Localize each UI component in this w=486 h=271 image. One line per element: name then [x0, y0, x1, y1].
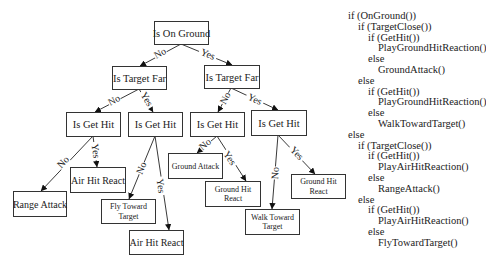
edge-label: No [134, 160, 149, 176]
edge-yes: Yes [278, 135, 315, 174]
code-line: if (GetHit()) [368, 86, 420, 97]
edge-no: No [129, 136, 155, 199]
code-line: else [358, 194, 374, 205]
node-label: React [224, 194, 243, 203]
code-line: WalkTowardTarget() [378, 118, 465, 129]
edge-no: No [217, 88, 232, 112]
node-ground-hit-1: Ground HitReact [206, 182, 261, 207]
node-label: React [309, 187, 328, 196]
node-label: Is Target Far [113, 73, 167, 84]
node-label: Is Get Hit [135, 119, 176, 130]
node-label: Target [118, 212, 139, 221]
code-line: PlayAirHitReaction() [378, 215, 468, 226]
code-line: else [358, 75, 374, 86]
code-line: else [368, 53, 384, 64]
node-hit-2: Is Get Hit [129, 113, 183, 137]
node-hit-4: Is Get Hit [252, 111, 307, 136]
node-root: Is On Ground [153, 22, 211, 45]
node-fly-toward: Fly TowardTarget [102, 200, 156, 224]
node-label: Is Target Far [205, 72, 259, 83]
edge-label: No [197, 136, 213, 152]
node-label: Ground Attack [172, 162, 219, 171]
code-line: else [368, 107, 384, 118]
node-label: Walk Toward [251, 213, 294, 222]
edge-label: No [217, 90, 232, 106]
node-walk-toward: Walk TowardTarget [246, 210, 300, 235]
code-line: if (TargetClose()) [358, 140, 431, 151]
node-far-l: Is Target Far [113, 67, 167, 90]
edge-yes: Yes [90, 136, 103, 167]
node-air-hit-2: Air Hit React [130, 231, 184, 255]
node-label: Is Get Hit [258, 118, 299, 129]
node-hit-3: Is Get Hit [191, 113, 245, 137]
code-line: if (OnGround()) [348, 10, 416, 21]
code-line: if (GetHit()) [368, 32, 420, 43]
node-label: Ground Hit [300, 177, 337, 186]
node-hit-1: Is Get Hit [67, 113, 121, 137]
node-label: Fly Toward [110, 202, 147, 211]
edge-yes: Yes [138, 88, 156, 112]
code-line: PlayGroundHitReaction() [378, 96, 486, 107]
nodes-group: Is On GroundIs Target FarIs Target FarIs… [13, 22, 346, 255]
node-far-r: Is Target Far [205, 66, 260, 89]
edge-label: Yes [90, 143, 103, 159]
node-label: Is Get Hit [73, 119, 114, 130]
code-line: if (GetHit()) [368, 204, 420, 215]
edge-no: No [269, 135, 281, 209]
code-line: PlayGroundHitReaction() [378, 42, 486, 53]
code-line: if (GetHit()) [368, 150, 420, 161]
node-label: Is On Ground [153, 28, 211, 39]
edge-yes: Yes [154, 136, 169, 230]
edge-yes: Yes [231, 88, 278, 110]
node-label: Range Attack [13, 199, 67, 210]
edge-label: No [55, 154, 71, 170]
edge-label: No [269, 166, 281, 179]
edge-no: No [140, 44, 181, 66]
code-line: RangeAttack() [378, 183, 440, 194]
code-line: else [368, 172, 384, 183]
code-line: PlayAirHitReaction() [378, 161, 468, 172]
edge-no: No [197, 136, 217, 153]
node-label: Target [262, 222, 283, 231]
node-ground-attack: Ground Attack [169, 154, 223, 179]
node-label: Is Get Hit [197, 119, 238, 130]
node-range-attack: Range Attack [13, 192, 67, 217]
code-line: else [348, 129, 364, 140]
edge-no: No [95, 89, 139, 112]
edge-yes: Yes [181, 44, 232, 65]
node-air-hit-1: Air Hit React [71, 168, 126, 193]
code-line: if (TargetClose()) [358, 21, 431, 32]
node-label: Air Hit React [130, 237, 184, 248]
code-line: FlyTowardTarget() [378, 237, 457, 248]
code-line: else [368, 226, 384, 237]
node-ground-hit-2: Ground HitReact [292, 175, 346, 199]
edge-label: Yes [154, 178, 167, 194]
node-label: Air Hit React [71, 175, 125, 186]
code-line: GroundAttack() [378, 64, 445, 75]
node-label: Ground Hit [215, 185, 252, 194]
